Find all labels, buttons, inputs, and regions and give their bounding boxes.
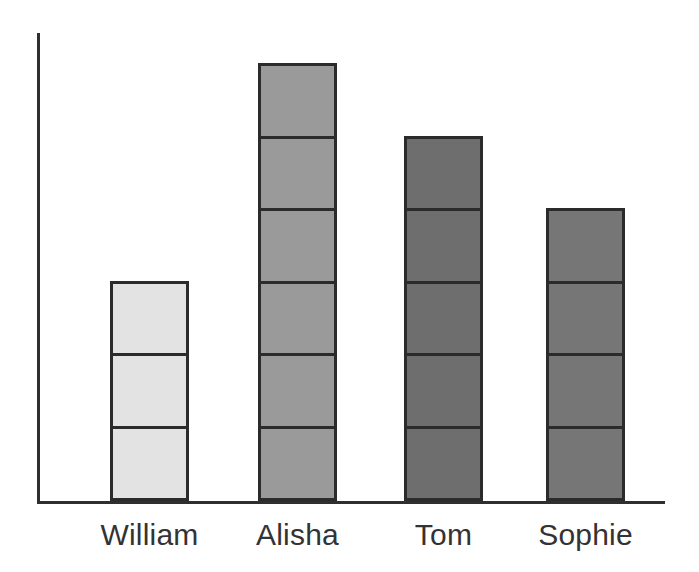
bar-segment <box>258 208 337 284</box>
bar-segment <box>546 281 625 357</box>
bar-segment <box>404 353 483 429</box>
bar-segment <box>110 281 189 357</box>
bar-segment <box>258 281 337 357</box>
x-axis-label-sophie: Sophie <box>506 516 666 554</box>
bar-segment <box>258 426 337 502</box>
x-axis-label-tom: Tom <box>364 516 524 554</box>
x-axis-label-alisha: Alisha <box>218 516 378 554</box>
bar-segment <box>404 136 483 212</box>
bar-segment <box>404 281 483 357</box>
bar-alisha <box>258 63 337 501</box>
bar-chart: WilliamAlishaTomSophie <box>0 0 699 572</box>
bar-segment <box>404 208 483 284</box>
bar-segment <box>258 63 337 139</box>
x-axis-label-william: William <box>70 516 230 554</box>
bar-segment <box>546 208 625 284</box>
bar-segment <box>546 353 625 429</box>
bar-segment <box>404 426 483 502</box>
bar-segment <box>110 426 189 502</box>
bar-william <box>110 281 189 502</box>
bar-segment <box>258 353 337 429</box>
bar-tom <box>404 136 483 502</box>
bar-segment <box>546 426 625 502</box>
bar-segment <box>110 353 189 429</box>
bar-sophie <box>546 208 625 501</box>
bar-segment <box>258 136 337 212</box>
